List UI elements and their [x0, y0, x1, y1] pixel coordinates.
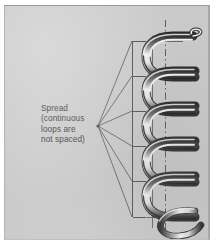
figure-root: Spread (continuous loops are not spaced) — [0, 0, 219, 247]
coil-diagram-svg — [5, 6, 210, 240]
scanned-plate: Spread (continuous loops are not spaced) — [4, 5, 210, 240]
coil-trailing-tail — [160, 209, 202, 237]
leader-line-4 — [98, 126, 132, 146]
leader-line-5 — [98, 126, 132, 181]
continuous-wire-coil — [143, 29, 201, 236]
leader-line-6 — [98, 126, 132, 217]
spread-annotation-label: Spread (continuous loops are not spaced) — [41, 104, 103, 146]
